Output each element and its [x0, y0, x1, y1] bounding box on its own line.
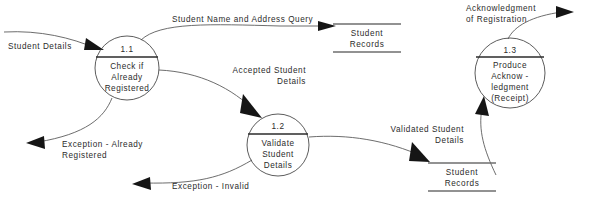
process-1-1-number: 1.1 — [121, 45, 134, 54]
flow-label-student-name-query: Student Name and Address Query — [172, 14, 313, 25]
arrow-head-icon — [84, 38, 104, 50]
process-1-2-line-3: Details — [264, 161, 293, 170]
store-top-label-2: Records — [350, 40, 385, 49]
process-1-3-line-2: Acknow - — [491, 72, 529, 81]
process-1-3-number: 1.3 — [504, 46, 517, 55]
process-1-2[interactable]: 1.2 Validate Student Details — [247, 114, 309, 176]
arrow-head-icon — [132, 177, 151, 190]
arrow-head-icon — [556, 6, 574, 18]
flow-label-student-details: Student Details — [8, 41, 72, 52]
arrow-head-icon — [318, 21, 336, 31]
process-1-3-line-3: ledgment — [491, 83, 529, 92]
process-1-1-line-1: Check if — [110, 62, 144, 71]
dfd-diagram: 1.1 Check if Already Registered 1.2 Vali… — [0, 0, 591, 204]
store-bottom-label-2: Records — [445, 179, 480, 188]
process-1-2-line-2: Student — [262, 150, 294, 159]
process-1-3[interactable]: 1.3 Produce Acknow - ledgment (Receipt) — [475, 38, 545, 108]
diagram-canvas: 1.1 Check if Already Registered 1.2 Vali… — [0, 0, 591, 204]
flow-label-validated-student-details: Validated StudentDetails — [372, 124, 464, 146]
process-1-2-line-1: Validate — [262, 139, 295, 148]
data-store-student-records-bottom[interactable]: Student Records — [428, 163, 496, 191]
process-1-1[interactable]: 1.1 Check if Already Registered — [95, 36, 159, 100]
flow-label-exception-invalid: Exception - Invalid — [172, 181, 249, 192]
process-1-3-line-4: (Receipt) — [491, 94, 529, 103]
process-1-1-line-3: Registered — [105, 84, 150, 93]
flow-label-exception-already-registered: Exception - AlreadyRegistered — [62, 139, 143, 161]
flow-label-acknowledgment-of-registration: Acknowledgmentof Registration — [466, 3, 536, 25]
process-1-1-line-2: Already — [111, 73, 143, 82]
data-store-student-records-top[interactable]: Student Records — [333, 24, 401, 52]
process-1-2-number: 1.2 — [272, 122, 285, 131]
process-1-3-line-1: Produce — [493, 61, 527, 70]
store-top-label-1: Student — [351, 29, 384, 38]
store-bottom-label-1: Student — [446, 168, 479, 177]
flow-label-accepted-student-details: Accepted StudentDetails — [196, 65, 306, 87]
arrow-head-icon — [240, 94, 262, 118]
arrow-head-icon — [26, 136, 45, 149]
